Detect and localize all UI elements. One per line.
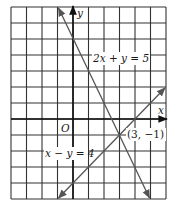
x-axis-label: x xyxy=(158,104,164,116)
grid-lines xyxy=(11,7,166,199)
origin-label: O xyxy=(61,122,70,134)
equation-label-2x-plus-y: 2x + y = 5 xyxy=(92,52,149,64)
y-axis-label: y xyxy=(76,7,84,19)
equation-label-x-minus-y: x − y = 4 xyxy=(45,147,94,159)
intersection-label: (3, −1) xyxy=(127,128,164,140)
line-x-minus-y-eq-4 xyxy=(59,88,166,198)
coordinate-graph: yxO2x + y = 5x − y = 4(3, −1) xyxy=(0,0,173,215)
graph-labels: yxO2x + y = 5x − y = 4(3, −1) xyxy=(44,7,166,160)
